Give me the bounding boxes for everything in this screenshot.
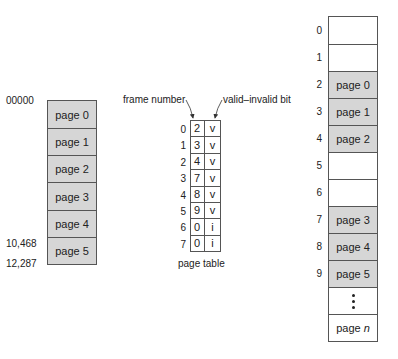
valid-bit-cell: v	[204, 202, 221, 218]
row-index: 6	[174, 222, 186, 233]
frame-number-cell: 3	[190, 137, 204, 153]
valid-bit-cell: v	[204, 170, 221, 186]
row-index: 5	[174, 206, 186, 217]
row-index: 7	[174, 239, 186, 250]
valid-bit-cell: v	[204, 153, 221, 169]
frame-9: page 5	[329, 260, 377, 287]
frame-6	[329, 179, 377, 206]
frame-number-cell: 0	[190, 235, 204, 251]
frame-index-7: 7	[310, 214, 322, 225]
frame-index-5: 5	[310, 160, 322, 171]
frame-index-9: 9	[310, 268, 322, 279]
frame-4: page 2	[329, 125, 377, 152]
page-n-prefix: page	[336, 322, 364, 334]
frame-ellipsis	[329, 287, 377, 314]
frame-index-3: 3	[310, 106, 322, 117]
valid-bit-cell: v	[204, 137, 221, 153]
frame-number-cell: 9	[190, 202, 204, 218]
row-index: 2	[174, 157, 186, 168]
row-index: 3	[174, 173, 186, 184]
page-table-caption: page table	[178, 258, 225, 269]
frame-index-1: 1	[310, 52, 322, 63]
valid-bit-cell: v	[204, 120, 221, 136]
vertical-ellipsis-icon	[352, 294, 355, 309]
frame-2: page 0	[329, 71, 377, 98]
valid-bit-cell: v	[204, 186, 221, 202]
row-index: 1	[174, 140, 186, 151]
frame-0	[329, 17, 377, 44]
frame-number-cell: 8	[190, 186, 204, 202]
frame-number-cell: 4	[190, 153, 204, 169]
frame-3: page 1	[329, 98, 377, 125]
row-index: 4	[174, 190, 186, 201]
page-n-variable: n	[364, 322, 370, 334]
frame-8: page 4	[329, 233, 377, 260]
frame-index-6: 6	[310, 187, 322, 198]
frame-1	[329, 44, 377, 71]
frame-index-4: 4	[310, 133, 322, 144]
frame-number-cell: 0	[190, 219, 204, 235]
valid-bit-cell: i	[204, 235, 221, 251]
frame-number-cell: 2	[190, 120, 204, 136]
frame-index-8: 8	[310, 241, 322, 252]
frame-index-0: 0	[310, 25, 322, 36]
frame-page-n: page n	[329, 314, 377, 341]
frame-7: page 3	[329, 206, 377, 233]
valid-bit-cell: i	[204, 219, 221, 235]
frame-number-cell: 7	[190, 170, 204, 186]
row-index: 0	[174, 124, 186, 135]
physical-memory-column: page 0 page 1 page 2 page 3 page 4 page …	[328, 16, 378, 342]
frame-5	[329, 152, 377, 179]
frame-index-2: 2	[310, 79, 322, 90]
